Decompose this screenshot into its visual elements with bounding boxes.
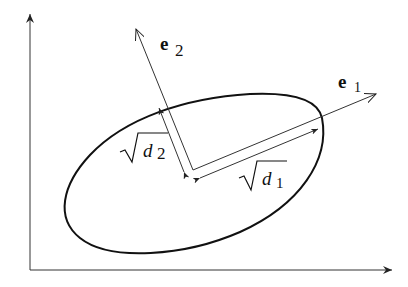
svg-text:2: 2 — [175, 41, 184, 60]
svg-text:e: e — [338, 71, 346, 92]
label-sqrt-d2: d 2 — [120, 133, 168, 163]
ellipse — [65, 94, 324, 254]
sqrt-d1-arrow — [200, 129, 318, 178]
e1-vector — [193, 94, 376, 170]
axes — [30, 14, 392, 270]
label-e2: e 2 — [160, 33, 184, 60]
svg-text:1: 1 — [354, 80, 361, 95]
length-indicators — [159, 108, 318, 178]
svg-text:d: d — [143, 140, 153, 161]
svg-text:d: d — [262, 168, 272, 189]
ellipse-diagram: e 2 e 1 d 2 d 1 — [0, 0, 408, 287]
label-sqrt-d1: d 1 — [239, 161, 287, 191]
svg-text:1: 1 — [276, 175, 284, 191]
label-e1: e 1 — [338, 71, 361, 95]
svg-text:2: 2 — [157, 144, 166, 163]
svg-text:e: e — [160, 33, 168, 54]
eigenvectors — [136, 29, 376, 170]
